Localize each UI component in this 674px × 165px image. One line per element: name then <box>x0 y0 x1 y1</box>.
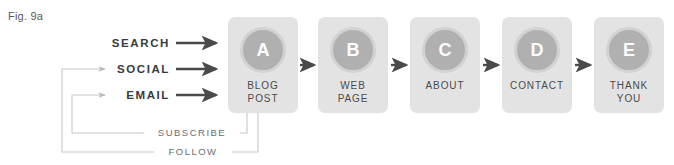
stage-card-c: C ABOUT <box>410 17 480 113</box>
channel-label-search: SEARCH <box>40 36 170 50</box>
stage-name-c-line1: ABOUT <box>410 79 480 92</box>
loop-label-subscribe: SUBSCRIBE <box>148 127 236 139</box>
stage-name-b: WEB PAGE <box>318 79 388 105</box>
stage-card-e: E THANK YOU <box>594 17 664 113</box>
stage-card-b: B WEB PAGE <box>318 17 388 113</box>
stage-badge-c: C <box>422 27 468 73</box>
stage-name-e: THANK YOU <box>594 79 664 105</box>
stage-name-a-line1: BLOG <box>228 79 298 92</box>
stage-name-a-line2: POST <box>228 92 298 105</box>
stage-name-e-line1: THANK <box>594 79 664 92</box>
channel-label-email: EMAIL <box>40 88 170 102</box>
stage-name-e-line2: YOU <box>594 92 664 105</box>
stage-badge-d: D <box>514 27 560 73</box>
stage-name-c: ABOUT <box>410 79 480 92</box>
stage-name-d-line1: CONTACT <box>502 79 572 92</box>
stage-name-a: BLOG POST <box>228 79 298 105</box>
stage-badge-b: B <box>330 27 376 73</box>
stage-name-b-line2: PAGE <box>318 92 388 105</box>
loop-label-follow: FOLLOW <box>158 146 228 158</box>
figure-9a-diagram: Fig. 9a <box>0 0 674 165</box>
stage-badge-e: E <box>606 27 652 73</box>
stage-name-b-line1: WEB <box>318 79 388 92</box>
channel-label-social: SOCIAL <box>40 62 170 76</box>
stage-name-d: CONTACT <box>502 79 572 92</box>
stage-badge-a: A <box>240 27 286 73</box>
stage-card-d: D CONTACT <box>502 17 572 113</box>
stage-card-a: A BLOG POST <box>228 17 298 113</box>
